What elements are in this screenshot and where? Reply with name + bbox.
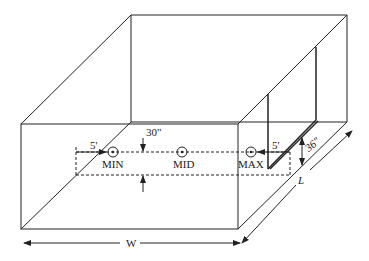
height-36-label: 36" (302, 134, 323, 154)
length-arrow-down (242, 185, 296, 243)
max-label: MAX (238, 158, 264, 170)
room-diagram: 5' 5' 30" 36" MIN MID MAX W L (0, 0, 369, 261)
min-label: MIN (102, 158, 123, 170)
width-label: W (126, 237, 137, 249)
offset-right-label: 5' (272, 139, 280, 151)
height-30-label: 30" (146, 126, 162, 138)
length-label: L (297, 174, 304, 186)
offset-left-label: 5' (90, 139, 98, 151)
mid-label: MID (173, 158, 194, 170)
room-box (21, 15, 347, 229)
length-arrow-up (310, 131, 352, 170)
